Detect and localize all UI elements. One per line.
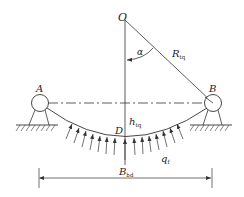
label-radius: Rtq: [171, 48, 186, 61]
label-d: D: [114, 125, 123, 136]
membrane-diagram: O α Rtq A B D htq qf Bbd: [0, 0, 244, 197]
label-alpha: α: [137, 47, 143, 57]
label-load: qf: [161, 153, 170, 165]
label-b: B: [208, 83, 216, 94]
radius-line: [125, 20, 213, 103]
label-a: A: [35, 83, 43, 94]
label-sag: htq: [129, 116, 142, 129]
membrane-curve: [47, 108, 207, 137]
label-o: O: [118, 11, 127, 24]
support-b: [190, 95, 232, 132]
diagram-canvas: O α Rtq A B D htq qf Bbd: [0, 0, 244, 197]
support-a: [16, 95, 58, 132]
label-span: Bbd: [118, 166, 134, 178]
